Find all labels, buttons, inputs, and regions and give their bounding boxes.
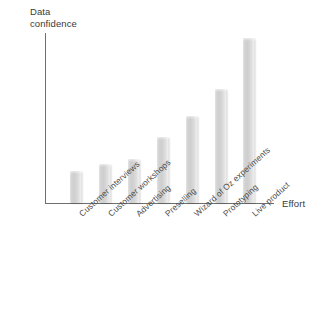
x-tick-label-group: Customer interviewsCustomer workshopsAdv… xyxy=(0,0,326,315)
bar-chart-figure: Data confidence Effort Customer intervie… xyxy=(0,0,326,315)
